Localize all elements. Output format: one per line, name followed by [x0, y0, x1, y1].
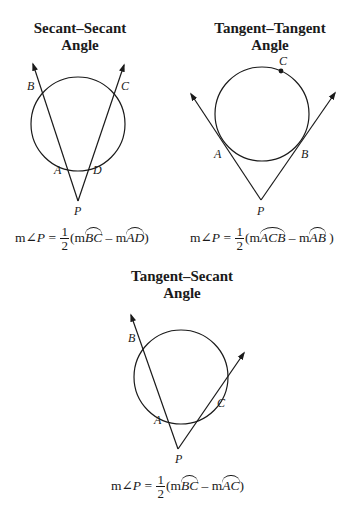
angle-symbol: ∠	[26, 230, 37, 245]
formula-equals: =	[45, 230, 59, 245]
point-label-a: A	[213, 147, 222, 161]
secant-line-pb	[131, 315, 178, 449]
arc-acb: ACB	[260, 230, 286, 246]
point-label-b: B	[301, 147, 309, 161]
point-c-dot	[279, 69, 284, 74]
point-label-d: D	[92, 163, 102, 177]
secant-secant-formula: m∠P = 12(mBC – mAD)	[15, 225, 149, 252]
point-label-a: A	[53, 163, 62, 177]
fraction-one-half: 12	[235, 225, 244, 252]
tangent-tangent-diagram	[191, 67, 335, 200]
formula-var: P	[133, 478, 141, 493]
secant-line-pb	[33, 64, 78, 201]
tangent-secant-diagram	[131, 315, 244, 449]
point-label-p: P	[174, 452, 183, 466]
point-label-b: B	[27, 79, 35, 93]
formula-equals: =	[141, 478, 155, 493]
point-label-a: A	[153, 413, 162, 427]
point-label-c: C	[279, 54, 288, 68]
arc-ac: AC	[222, 478, 239, 494]
formula-m: m	[190, 230, 201, 245]
angle-symbol: ∠	[201, 230, 212, 245]
arc-ab: AB	[309, 230, 326, 246]
point-label-c: C	[121, 79, 130, 93]
point-label-p: P	[73, 204, 82, 218]
arc-ad: AD	[126, 230, 144, 246]
tangent-line-pb	[261, 93, 335, 200]
tangent-line-pc	[178, 353, 244, 449]
fraction-one-half: 12	[60, 225, 69, 252]
point-label-c: C	[217, 396, 226, 410]
circle	[134, 330, 228, 424]
circle	[31, 77, 125, 171]
circle	[215, 67, 309, 161]
angle-symbol: ∠	[122, 478, 133, 493]
point-label-b: B	[128, 331, 136, 345]
formula-equals: =	[220, 230, 234, 245]
tangent-tangent-formula: m∠P = 12(mACB – mAB )	[190, 225, 334, 252]
arc-bc: BC	[181, 478, 198, 494]
formula-m: m	[15, 230, 26, 245]
arc-bc: BC	[85, 230, 102, 246]
point-label-p: P	[256, 204, 265, 218]
formula-var: P	[212, 230, 220, 245]
tangent-secant-formula: m∠P = 12(mBC – mAC)	[111, 473, 244, 500]
secant-line-pc	[78, 65, 124, 201]
formula-m: m	[111, 478, 122, 493]
formula-var: P	[37, 230, 45, 245]
geometry-figures: B C A D P C A B P B A C P	[0, 0, 359, 511]
secant-secant-diagram	[31, 64, 125, 201]
tangent-line-pa	[191, 94, 261, 200]
fraction-one-half: 12	[156, 473, 165, 500]
